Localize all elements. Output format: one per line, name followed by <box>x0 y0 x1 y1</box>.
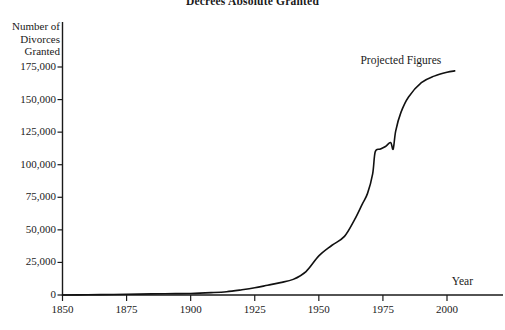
x-axis-tick-label: 1900 <box>168 304 214 315</box>
x-axis-tick-label: 1925 <box>232 304 278 315</box>
y-axis-tick-label: 75,000 <box>0 191 56 202</box>
x-axis-tick-label: 1950 <box>296 304 342 315</box>
y-axis-tick-label: 150,000 <box>0 94 56 105</box>
x-axis-tick-label: 2000 <box>424 304 470 315</box>
x-axis-tick-label: 1975 <box>360 304 406 315</box>
series-group <box>63 71 455 295</box>
x-axis-ticks <box>63 295 448 301</box>
y-axis-tick-label: 175,000 <box>0 61 56 72</box>
y-axis-ticks <box>58 67 63 295</box>
y-axis-tick-label: 25,000 <box>0 256 56 267</box>
y-axis-tick-label: 0 <box>0 289 56 300</box>
divorce-decrees-line-chart: Decrees Absolute Granted Number of Divor… <box>0 0 505 330</box>
chart-canvas <box>0 0 505 330</box>
y-axis-tick-label: 100,000 <box>0 159 56 170</box>
x-axis-tick-label: 1875 <box>104 304 150 315</box>
x-axis-tick-label: 1850 <box>40 304 86 315</box>
chart-annotation: Projected Figures <box>360 54 441 66</box>
y-axis-tick-label: 125,000 <box>0 126 56 137</box>
y-axis-tick-label: 50,000 <box>0 224 56 235</box>
series-line-decrees-absolute-granted <box>63 71 455 295</box>
chart-annotation: Year <box>452 275 473 287</box>
